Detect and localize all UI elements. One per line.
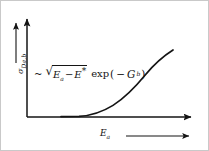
y-axis-label: σDa,b	[17, 47, 27, 81]
x-axis-symbol: E	[100, 128, 107, 138]
close-paren: )	[141, 69, 145, 80]
scaling-formula-annotation: ~ √ Ea−E* exp (−Gb)	[34, 65, 145, 83]
exp-subscript: b	[136, 71, 140, 77]
cross-section-curve	[61, 50, 173, 117]
y-axis-subscript: Da,b	[20, 54, 27, 69]
minus-operator: −	[64, 69, 74, 80]
exp-symbol: G	[127, 69, 135, 80]
radicand-second-symbol: E	[74, 69, 81, 80]
x-axis-subscript: a	[107, 133, 111, 140]
radicand-star-superscript: *	[82, 66, 87, 76]
open-paren: (	[110, 69, 114, 80]
figure-container: σDa,b Ea ~ √ Ea−E* exp (−Gb)	[0, 0, 209, 151]
x-axis-label: Ea	[100, 129, 110, 140]
tilde-symbol: ~	[34, 69, 42, 79]
y-axis-symbol: σ	[16, 68, 25, 74]
exp-function-name: exp	[91, 69, 109, 79]
radicand: Ea−E*	[52, 65, 87, 83]
exp-minus-operator: −	[115, 69, 126, 80]
square-root-group: √ Ea−E*	[45, 65, 87, 83]
